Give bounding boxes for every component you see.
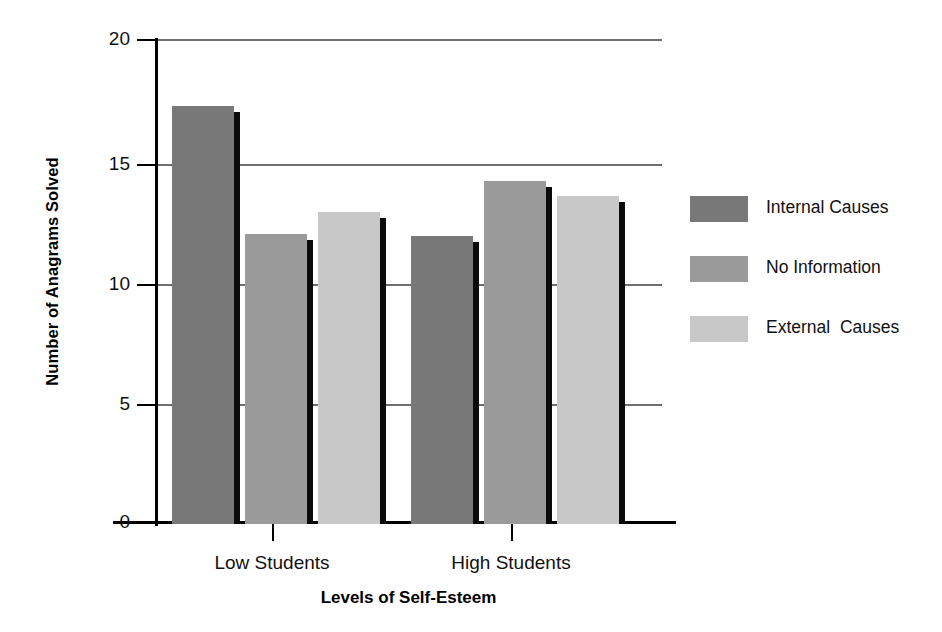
bar-low-internal-causes — [172, 106, 234, 524]
bar-high-external-causes — [557, 196, 619, 524]
x-tick-mark-high-students — [511, 524, 513, 541]
y-tick-label-5: 5 — [78, 393, 130, 415]
x-tick-label-low-students: Low Students — [142, 552, 402, 574]
legend-swatch-internal-causes — [690, 196, 748, 222]
bar-fill — [318, 212, 380, 524]
bar-shadow — [234, 112, 240, 524]
bar-shadow — [307, 240, 313, 524]
legend-label-no-information: No Information — [766, 257, 881, 278]
x-tick-label-high-students: High Students — [381, 552, 641, 574]
bar-fill — [411, 236, 473, 524]
bar-fill — [245, 234, 307, 524]
bar-shadow — [619, 202, 625, 524]
legend-label-external-causes: External Causes — [766, 317, 899, 338]
legend-swatch-external-causes — [690, 316, 748, 342]
bar-high-internal-causes — [411, 236, 473, 524]
bar-chart: Number of Anagrams Solved 20 15 10 5 0 — [0, 0, 942, 632]
bar-fill — [172, 106, 234, 524]
legend-swatch-no-information — [690, 256, 748, 282]
bar-shadow — [380, 218, 386, 524]
bar-shadow — [473, 242, 479, 524]
y-tick-label-10: 10 — [78, 273, 130, 295]
x-axis-title: Levels of Self-Esteem — [155, 588, 662, 608]
plot-area — [155, 40, 662, 524]
bar-fill — [484, 181, 546, 524]
bar-shadow — [546, 187, 552, 524]
legend-label-internal-causes: Internal Causes — [766, 197, 889, 218]
bar-low-external-causes — [318, 212, 380, 524]
y-tick-label-15: 15 — [78, 153, 130, 175]
bar-low-no-information — [245, 234, 307, 524]
bar-high-no-information — [484, 181, 546, 524]
bar-fill — [557, 196, 619, 524]
y-axis-title: Number of Anagrams Solved — [43, 112, 62, 432]
x-tick-mark-low-students — [272, 524, 274, 541]
y-tick-label-20: 20 — [78, 28, 130, 50]
